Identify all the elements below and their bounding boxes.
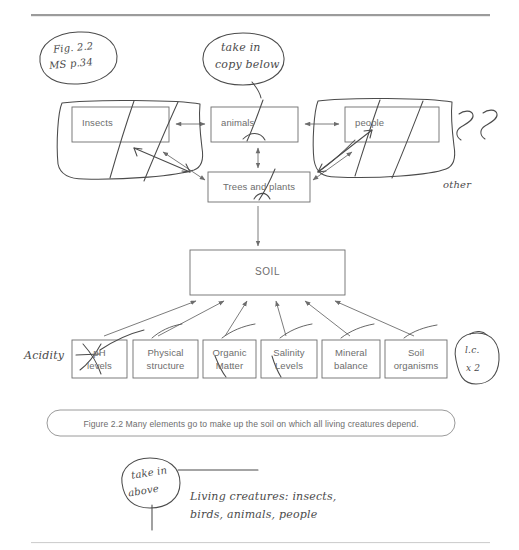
annotation-lc-line2: x 2 [466, 362, 480, 374]
lc-note-circle [455, 333, 499, 384]
label-organisms-line2: organisms [385, 360, 447, 373]
run-on-mark-2 [481, 110, 497, 139]
hand-slash-insects-2 [144, 102, 178, 181]
label-people: people [355, 117, 425, 130]
label-mineral-line2: balance [322, 360, 380, 373]
annotation-lc-line1: l.c. [465, 344, 479, 356]
label-ph-line1: pH [72, 347, 127, 360]
label-mineral-line1: Mineral [322, 347, 380, 360]
label-organisms-line1: Soil [385, 347, 447, 360]
leader-organic [222, 324, 255, 338]
annotation-living-creatures-line1: Living creatures: insects, [190, 490, 336, 504]
label-insects: Insects [82, 117, 152, 130]
label-salinity-line1: Salinity [261, 347, 317, 360]
leader-mineral [341, 324, 374, 338]
annotation-copy-below-line2: copy below [215, 58, 280, 72]
hand-caret-animals-hook [243, 134, 265, 141]
leader-organisms [404, 325, 437, 338]
annotation-take-in-line1: take in [221, 41, 261, 55]
label-soil: SOIL [190, 266, 345, 279]
annotation-living-creatures-line2: birds, animals, people [190, 508, 317, 522]
label-physical-line1: Physical [133, 347, 198, 360]
hand-frame-people [313, 98, 455, 177]
label-physical-line2: structure [133, 360, 198, 373]
scanned-page: Insects animals people Trees and plants … [0, 0, 519, 550]
label-organic-line1: Organic [203, 347, 256, 360]
run-on-mark-1 [457, 111, 473, 140]
label-trees-and-plants: Trees and plants [208, 181, 310, 194]
hand-slash-insects-1 [110, 101, 134, 178]
hand-slash-people-1 [355, 100, 380, 176]
annotation-acidity: Acidity [24, 349, 64, 363]
figure-caption: Figure 2.2 Many elements go to make up t… [47, 419, 455, 429]
annotation-other: other [443, 178, 471, 191]
label-organic-line2: Matter [203, 360, 256, 373]
leader-physical [152, 324, 182, 338]
hand-arrow-insects [134, 148, 190, 172]
hand-slash-people-2 [392, 101, 423, 178]
label-animals: animals [221, 117, 291, 130]
label-ph-line2: levels [72, 360, 127, 373]
take-in-copy-pointer [252, 82, 261, 98]
leader-salinity [280, 324, 312, 338]
label-salinity-line2: Levels [261, 360, 317, 373]
